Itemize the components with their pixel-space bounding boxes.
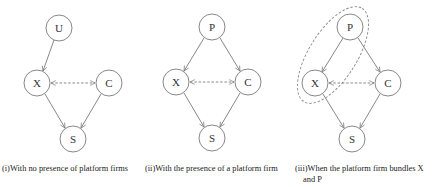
panel-ii-graph: P X C S — [163, 14, 261, 151]
edge-p-to-x — [184, 38, 204, 71]
edge-c-to-s — [81, 94, 101, 128]
edge-x-to-s — [323, 94, 344, 128]
edge-p-to-x — [322, 38, 343, 72]
node-p: P — [199, 14, 225, 40]
edge-c-to-s — [360, 94, 380, 128]
edge-p-to-c — [220, 38, 240, 71]
node-s: S — [199, 125, 225, 151]
caption-panel-iii-line1: (iii)When the platform firm bundles X — [295, 163, 424, 174]
svg-text:S: S — [209, 132, 215, 144]
svg-text:X: X — [172, 76, 180, 88]
bundle-ellipse-x-p — [284, 0, 383, 114]
diagram-canvas: U X C S P X C S P X C S — [0, 0, 440, 187]
caption-panel-iii-line2: and P — [303, 174, 322, 185]
svg-text:S: S — [70, 133, 76, 145]
edge-x-to-s — [184, 93, 204, 127]
svg-text:X: X — [33, 77, 41, 89]
node-c: C — [96, 70, 122, 96]
panel-iii-graph: P X C S — [284, 0, 401, 152]
node-x: X — [302, 70, 328, 96]
node-c: C — [235, 69, 261, 95]
svg-text:P: P — [209, 21, 215, 33]
node-s: S — [60, 126, 86, 152]
svg-text:C: C — [244, 76, 251, 88]
edge-x-to-s — [45, 94, 65, 128]
svg-text:S: S — [349, 133, 355, 145]
edge-p-to-c — [358, 38, 380, 72]
svg-text:U: U — [55, 22, 63, 34]
svg-text:X: X — [311, 77, 319, 89]
node-p: P — [337, 14, 363, 40]
node-u: U — [46, 15, 72, 41]
node-x: X — [24, 70, 50, 96]
svg-text:P: P — [347, 21, 353, 33]
edge-c-to-s — [220, 93, 240, 127]
node-x: X — [163, 69, 189, 95]
svg-text:C: C — [384, 77, 391, 89]
panel-i-graph: U X C S — [24, 15, 122, 152]
svg-text:C: C — [105, 77, 112, 89]
node-c: C — [375, 70, 401, 96]
caption-panel-i: (i)With no presence of platform firms — [2, 163, 128, 174]
node-s: S — [339, 126, 365, 152]
caption-panel-ii: (ii)With the presence of a platform firm — [145, 163, 278, 174]
edge-u-to-x — [43, 40, 54, 71]
